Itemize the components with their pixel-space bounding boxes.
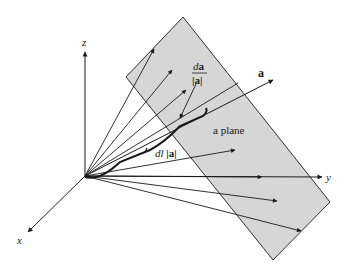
y-axis-label: y <box>325 171 331 183</box>
vector-a-label: a <box>258 66 264 80</box>
vector-diagram: z y x a a plane da |a| dl |a| <box>0 0 350 275</box>
plane-label: a plane <box>213 124 245 136</box>
plane <box>126 17 330 260</box>
dl-abs-a-label: dl |a| <box>155 147 177 159</box>
x-axis <box>28 176 85 232</box>
z-axis-label: z <box>81 36 87 48</box>
svg-text:da: da <box>193 60 205 72</box>
svg-text:|a|: |a| <box>192 74 202 86</box>
x-axis-label: x <box>16 234 22 246</box>
